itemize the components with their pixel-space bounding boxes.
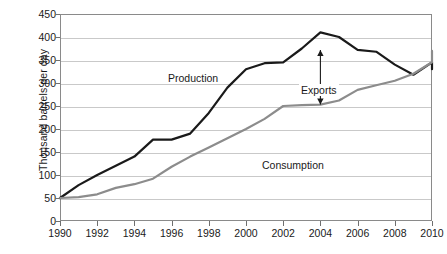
y-tick-label: 250 xyxy=(16,101,56,111)
y-tick-label: 0 xyxy=(16,216,56,226)
x-tick-label: 2000 xyxy=(226,228,266,239)
x-tick-mark xyxy=(134,221,135,226)
x-tick-label: 1994 xyxy=(114,228,154,239)
y-tick-label: 300 xyxy=(16,78,56,88)
exports-label: Exports xyxy=(299,84,339,96)
x-tick-label: 1990 xyxy=(40,228,80,239)
series-layer xyxy=(60,14,432,221)
x-tick-mark xyxy=(97,221,98,226)
x-tick-mark xyxy=(209,221,210,226)
x-tick-label: 2008 xyxy=(375,228,415,239)
y-tick-label: 200 xyxy=(16,124,56,134)
x-tick-mark xyxy=(283,221,284,226)
consumption-label: Consumption xyxy=(262,159,324,171)
exports-arrow-head-top xyxy=(317,50,323,56)
x-tick-mark xyxy=(395,221,396,226)
series-line-production xyxy=(60,32,432,198)
x-tick-label: 1996 xyxy=(152,228,192,239)
x-tick-mark xyxy=(246,221,247,226)
x-tick-mark xyxy=(320,221,321,226)
y-tick-label: 400 xyxy=(16,32,56,42)
x-tick-label: 2006 xyxy=(338,228,378,239)
y-tick-label: 350 xyxy=(16,55,56,65)
x-tick-mark xyxy=(172,221,173,226)
x-tick-label: 1998 xyxy=(189,228,229,239)
y-tick-label: 150 xyxy=(16,147,56,157)
x-tick-mark xyxy=(432,221,433,226)
x-tick-label: 2002 xyxy=(263,228,303,239)
x-tick-label: 2004 xyxy=(300,228,340,239)
x-tick-mark xyxy=(358,221,359,226)
x-tick-label: 1992 xyxy=(77,228,117,239)
y-tick-label: 450 xyxy=(16,9,56,19)
x-tick-label: 2010 xyxy=(412,228,447,239)
y-tick-label: 100 xyxy=(16,170,56,180)
production-consumption-line-chart: Thousand barrels per day 050100150200250… xyxy=(0,0,447,254)
production-label: Production xyxy=(168,72,218,84)
x-tick-mark xyxy=(60,221,61,226)
series-line-consumption xyxy=(60,51,432,198)
y-tick-label: 50 xyxy=(16,193,56,203)
